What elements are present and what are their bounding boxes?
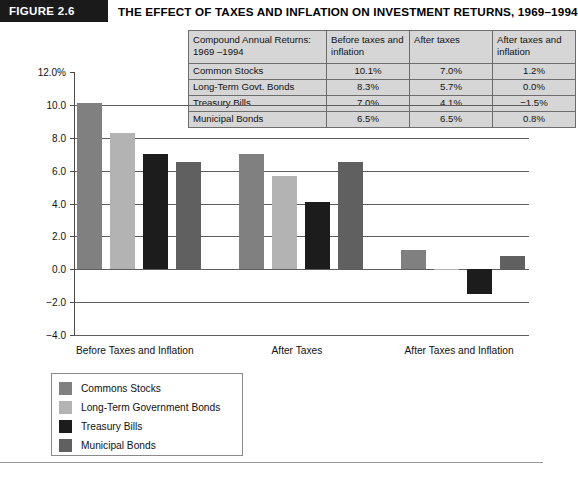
bar [500,256,525,269]
legend-label: Commons Stocks [81,383,161,394]
chart-legend: Commons StocksLong-Term Government Bonds… [51,373,243,456]
table-header-before: Before taxes and inflation [327,31,410,64]
bar [77,103,102,269]
bar [239,154,264,269]
table-header-after-taxes-inflation: After taxes and inflation [493,31,576,64]
plot-area [74,72,529,335]
bar [272,176,297,270]
x-axis-label: After Taxes and Inflation [405,345,514,356]
legend-label: Long-Term Government Bonds [81,402,220,413]
y-axis-tick-label: −2.0 [0,297,66,308]
x-axis-label: After Taxes [272,345,323,356]
y-axis-tick-label: −4.0 [0,330,66,341]
y-axis-tick-label: 10.0 [0,99,66,110]
legend-item: Long-Term Government Bonds [59,399,220,415]
legend-item: Treasury Bills [59,418,142,434]
legend-label: Treasury Bills [81,421,142,432]
gridline [74,269,529,270]
legend-item: Commons Stocks [59,380,161,396]
bar [401,250,426,270]
bar [434,269,459,270]
y-axis-tick-label: 4.0 [0,198,66,209]
table-header-metric: Compound Annual Returns: 1969 –1994 [189,31,327,64]
legend-item: Municipal Bonds [59,437,156,453]
gridline [74,72,529,73]
y-axis-tick-label: 0.0 [0,264,66,275]
gridline [74,138,529,139]
legend-swatch-icon [59,401,72,414]
figure-header: FIGURE 2.6 THE EFFECT OF TAXES AND INFLA… [0,0,543,22]
y-axis-tick-label: 2.0 [0,231,66,242]
bar [338,162,363,269]
figure-title: THE EFFECT OF TAXES AND INFLATION ON INV… [118,0,578,22]
bar [143,154,168,269]
bar [305,202,330,269]
legend-swatch-icon [59,439,72,452]
y-axis-tick-label: 12.0% [0,67,66,78]
bar [467,269,492,294]
gridline [74,335,529,336]
bar [110,133,135,269]
bar-chart: 12.0%10.08.06.04.02.00.0−2.0−4.0 Before … [0,60,543,355]
gridline [74,105,529,106]
legend-swatch-icon [59,420,72,433]
figure-tag: FIGURE 2.6 [0,0,108,22]
y-axis-tick-label: 8.0 [0,132,66,143]
y-axis-tick-label: 6.0 [0,165,66,176]
legend-swatch-icon [59,382,72,395]
bottom-divider [0,462,543,463]
x-axis-label: Before Taxes and Inflation [76,345,194,356]
table-header-after-taxes: After taxes [410,31,493,64]
legend-label: Municipal Bonds [81,440,156,451]
table-header-row: Compound Annual Returns: 1969 –1994 Befo… [189,31,576,64]
bar [176,162,201,269]
gridline [74,302,529,303]
